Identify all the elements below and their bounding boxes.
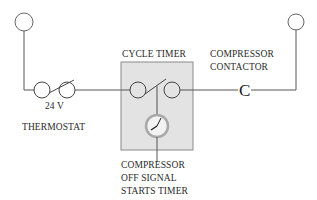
right-terminal (288, 14, 304, 30)
signal-label-3: STARTS TIMER (121, 185, 188, 197)
compressor-contactor-label-2: CONTACTOR (210, 61, 268, 73)
contactor-symbol: C (238, 82, 251, 99)
thermostat-contact-left (34, 82, 50, 98)
timer-contact-left (130, 82, 146, 98)
thermostat-contact-right (59, 82, 75, 98)
voltage-label: 24 V (45, 100, 64, 112)
compressor-contactor-label-1: COMPRESSOR (210, 48, 274, 60)
cycle-timer-label: CYCLE TIMER (122, 48, 186, 60)
signal-label-1: COMPRESSOR (121, 159, 185, 171)
timer-contact-right (164, 82, 180, 98)
thermostat-label: THERMOSTAT (22, 121, 85, 133)
left-terminal (15, 13, 33, 31)
signal-label-2: OFF SIGNAL (121, 172, 177, 184)
